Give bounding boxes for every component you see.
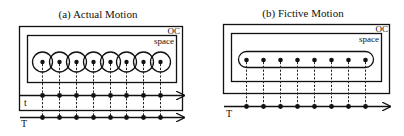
panel-b-T-label: T <box>226 108 232 119</box>
panel-b-space-label: space <box>359 34 379 44</box>
panel-b-T-axis: T <box>224 104 390 119</box>
panel-b-title: (b) Fictive Motion <box>262 7 344 20</box>
panel-b-oc-label: OC <box>375 24 388 34</box>
panel-b-projection-lines <box>247 62 366 106</box>
panel-a-title: (a) Actual Motion <box>59 8 138 21</box>
diagram-canvas: (a) Actual Motion OC space <box>0 0 404 136</box>
panel-a-t-label: t <box>24 97 27 108</box>
panel-b-pill <box>239 52 374 68</box>
panel-a-space-label: space <box>154 36 174 46</box>
panel-a-t-axis: t <box>20 93 184 108</box>
panel-b-points <box>244 58 368 63</box>
panel-fictive-motion: (b) Fictive Motion OC space <box>224 7 391 119</box>
panel-a-T-label: T <box>21 118 27 129</box>
panel-a-oc-label: OC <box>167 26 180 36</box>
panel-actual-motion: (a) Actual Motion OC space <box>20 8 185 129</box>
panel-a-T-axis: T <box>20 115 184 129</box>
panel-a-circled-points <box>33 52 171 72</box>
